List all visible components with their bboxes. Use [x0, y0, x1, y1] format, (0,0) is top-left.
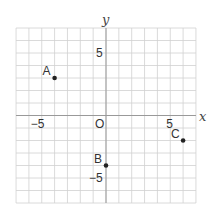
coordinate-plane: x y O −555−5 ABC: [0, 0, 222, 214]
y-tick-label: 5: [96, 46, 103, 60]
point-a: [52, 76, 57, 81]
point-label: C: [171, 127, 180, 141]
axes: [16, 28, 196, 203]
point-label: A: [43, 64, 51, 78]
origin-label: O: [95, 117, 104, 131]
y-axis-label: y: [101, 12, 110, 27]
x-tick-label: −5: [31, 117, 45, 131]
point-c: [181, 138, 186, 143]
point-b: [104, 163, 109, 168]
point-label: B: [94, 152, 102, 166]
y-tick-label: −5: [89, 171, 103, 185]
x-axis-label: x: [199, 109, 207, 124]
